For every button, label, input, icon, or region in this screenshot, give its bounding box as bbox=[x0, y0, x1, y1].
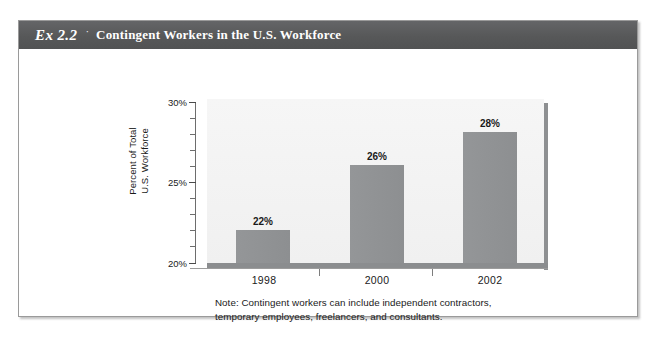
x-separator-tick-2 bbox=[432, 269, 433, 276]
exhibit-title: Contingent Workers in the U.S. Workforce bbox=[96, 27, 341, 43]
y-minor-tick-7 bbox=[190, 230, 196, 231]
y-minor-tick-1 bbox=[190, 118, 196, 119]
y-minor-tick-4 bbox=[190, 166, 196, 167]
y-major-tick-20 bbox=[189, 263, 196, 264]
chart-note-line1: Note: Contingent workers can include ind… bbox=[215, 296, 615, 310]
bar-2000 bbox=[350, 165, 404, 263]
x-category-label-1998: 1998 bbox=[209, 274, 319, 286]
y-minor-tick-2 bbox=[190, 134, 196, 135]
plot-panel-shadow bbox=[544, 103, 548, 270]
chart-region: Percent of Total U.S. Workforce 30% 25% … bbox=[19, 49, 637, 316]
y-tick-label-20: 20% bbox=[153, 258, 187, 269]
exhibit-header-band: Ex 2.2 · Contingent Workers in the U.S. … bbox=[19, 21, 637, 49]
bar-2002 bbox=[463, 132, 517, 263]
plot-area: 22% 26% 28% bbox=[207, 99, 544, 263]
y-minor-tick-3 bbox=[190, 150, 196, 151]
y-tick-label-25: 25% bbox=[153, 177, 187, 188]
bar-value-2000: 26% bbox=[350, 151, 404, 162]
y-tick-label-30: 30% bbox=[153, 97, 187, 108]
x-category-label-2002: 2002 bbox=[435, 274, 545, 286]
chart-note: Note: Contingent workers can include ind… bbox=[215, 296, 615, 324]
y-axis-title-line2: U.S. Workforce bbox=[139, 91, 151, 231]
y-axis-title-line1: Percent of Total bbox=[127, 91, 139, 231]
y-minor-tick-8 bbox=[190, 246, 196, 247]
bar-1998 bbox=[236, 230, 290, 263]
bar-value-2002: 28% bbox=[463, 118, 517, 129]
y-minor-tick-5 bbox=[190, 198, 196, 199]
bar-value-1998: 22% bbox=[236, 216, 290, 227]
x-axis-hairline bbox=[190, 268, 548, 269]
y-major-tick-25 bbox=[189, 182, 196, 183]
y-major-tick-30 bbox=[189, 102, 196, 103]
x-category-label-2000: 2000 bbox=[322, 274, 432, 286]
header-separator-dot: · bbox=[85, 26, 89, 37]
exhibit-number: Ex 2.2 bbox=[35, 27, 77, 44]
y-axis-tick-labels: 30% 25% 20% bbox=[153, 49, 187, 269]
x-separator-tick-1 bbox=[319, 269, 320, 276]
y-minor-tick-6 bbox=[190, 214, 196, 215]
chart-note-line2: temporary employees, freelancers, and co… bbox=[215, 310, 615, 324]
exhibit-frame: Ex 2.2 · Contingent Workers in the U.S. … bbox=[18, 20, 638, 317]
